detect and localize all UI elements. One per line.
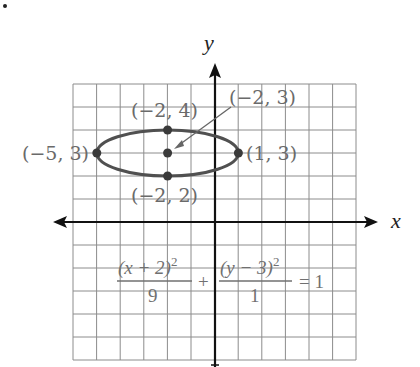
y-axis	[209, 63, 221, 367]
eq-term2-denominator: 1	[250, 285, 260, 306]
y-axis-label: y	[202, 30, 214, 55]
label-center: (−2, 3)	[229, 86, 296, 108]
eq-term2-numerator: (y − 3)2	[220, 254, 279, 279]
eq-term1-denominator: 9	[148, 285, 158, 306]
label-left-vertex: (−5, 3)	[22, 142, 89, 164]
eq-term1-numerator: (x + 2)2	[118, 254, 177, 279]
point-top-covertex	[163, 126, 172, 135]
bullet-dot	[3, 4, 7, 8]
point-left-vertex	[92, 149, 101, 158]
label-bottom-covertex: (−2, 2)	[131, 184, 198, 206]
point-bottom-covertex	[163, 172, 172, 181]
eq-equals-one: = 1	[299, 271, 324, 292]
point-center	[163, 149, 172, 158]
x-axis-label: x	[390, 208, 401, 233]
label-top-covertex: (−2, 4)	[131, 99, 198, 121]
ellipse-graph: y x (−5, 3) (1, 3) (−2, 4) (−2, 2) (−2, …	[0, 0, 420, 367]
arrow-head-icon	[174, 140, 184, 149]
eq-plus: +	[198, 271, 209, 292]
point-right-vertex	[234, 149, 243, 158]
ellipse-equation: (x + 2)2 9 + (y − 3)2 1 = 1	[117, 254, 324, 306]
label-right-vertex: (1, 3)	[246, 142, 297, 164]
